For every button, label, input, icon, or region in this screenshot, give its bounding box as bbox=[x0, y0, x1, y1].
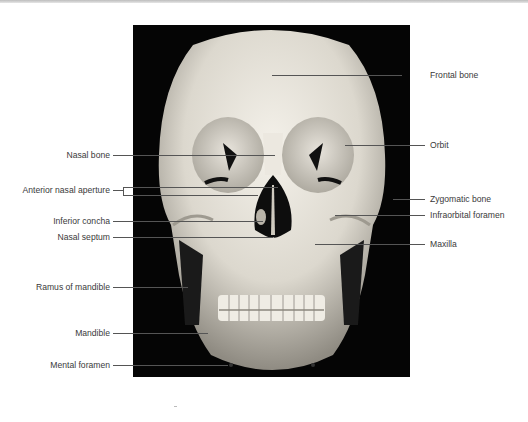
leader-line-nasal-septum bbox=[113, 237, 273, 238]
label-mental-foramen: Mental foramen bbox=[50, 360, 110, 370]
leader-line-anterior-nasal-aperture bbox=[113, 190, 123, 191]
label-nasal-bone: Nasal bone bbox=[67, 150, 110, 160]
label-maxilla: Maxilla bbox=[430, 239, 457, 249]
label-orbit: Orbit bbox=[430, 140, 449, 150]
leader-line-maxilla bbox=[315, 244, 425, 245]
label-ramus-of-mandible: Ramus of mandible bbox=[36, 282, 110, 292]
leader-line-infraorbital-foramen bbox=[335, 215, 425, 216]
leader-line-mandible bbox=[113, 333, 208, 334]
label-frontal-bone: Frontal bone bbox=[430, 70, 478, 80]
label-nasal-septum: Nasal septum bbox=[57, 232, 110, 242]
leader-line-aperture-lower bbox=[128, 195, 258, 196]
leader-line-ramus-of-mandible bbox=[113, 287, 188, 288]
label-mandible: Mandible bbox=[75, 328, 110, 338]
leader-line-zygomatic-bone bbox=[393, 199, 425, 200]
label-inferior-concha: Inferior concha bbox=[53, 216, 110, 226]
top-border bbox=[0, 0, 528, 3]
skull-illustration bbox=[133, 25, 410, 377]
leader-line-mental-foramen bbox=[113, 365, 228, 366]
label-anterior-nasal-aperture: Anterior nasal aperture bbox=[23, 185, 110, 195]
leader-line-orbit bbox=[345, 145, 425, 146]
label-zygomatic-bone: Zygomatic bone bbox=[430, 194, 491, 204]
leader-line-aperture-upper bbox=[128, 187, 278, 188]
skull-photograph bbox=[133, 25, 410, 377]
stray-mark bbox=[174, 406, 177, 407]
leader-line-inferior-concha bbox=[113, 221, 263, 222]
label-infraorbital-foramen: Infraorbital foramen bbox=[430, 210, 505, 220]
leader-line-frontal-bone bbox=[272, 75, 402, 76]
leader-line-nasal-bone bbox=[113, 155, 275, 156]
